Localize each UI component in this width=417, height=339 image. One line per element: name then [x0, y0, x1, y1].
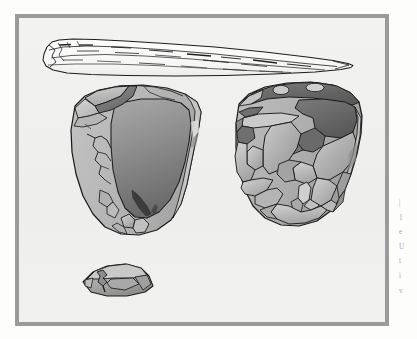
margin-caption-line: t	[399, 254, 417, 269]
artifact-core-right	[235, 82, 362, 226]
margin-caption: | 1 e U t i v	[399, 196, 417, 320]
artifact-flake-small	[83, 264, 153, 296]
artifact-core-left	[71, 85, 201, 235]
margin-caption-line: e	[399, 225, 417, 240]
margin-caption-line: U	[399, 240, 417, 255]
margin-caption-line: v	[399, 284, 417, 299]
margin-caption-line: i	[399, 269, 417, 284]
figure-root: | 1 e U t i v	[0, 0, 417, 339]
artifact-illustration	[15, 14, 389, 326]
artifact-blade-point	[43, 39, 353, 76]
margin-caption-line: |	[399, 196, 417, 211]
margin-caption-line: 1	[399, 211, 417, 226]
